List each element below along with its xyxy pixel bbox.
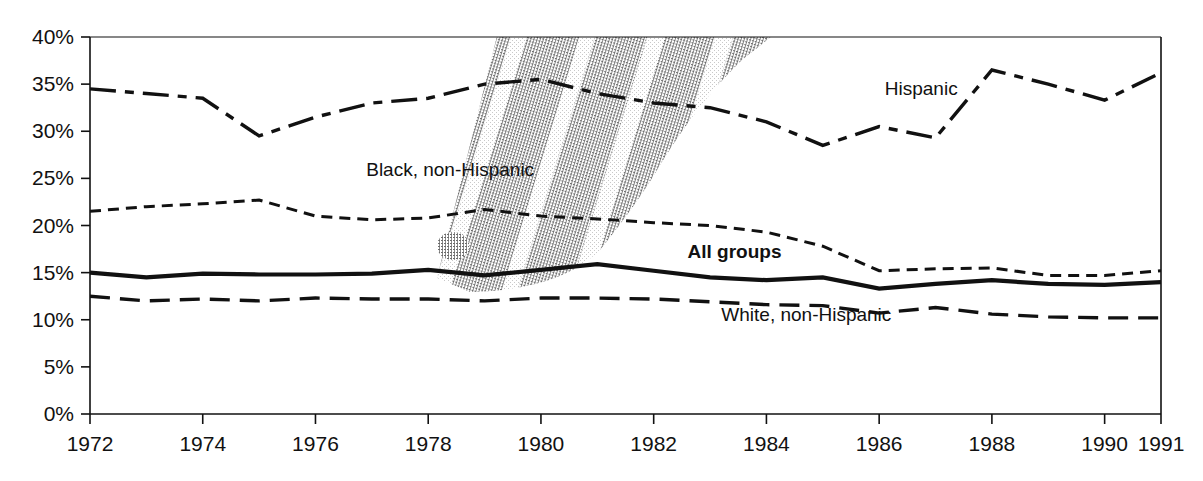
chart-root: 0%5%10%15%20%25%30%35%40% 19721974197619… — [0, 0, 1203, 481]
series-label: All groups — [688, 241, 782, 262]
x-tick-label: 1976 — [292, 432, 339, 455]
series-label: Hispanic — [885, 78, 958, 99]
x-axis-ticks — [90, 414, 1161, 424]
y-tick-label: 0% — [44, 402, 74, 425]
y-tick-label: 35% — [32, 72, 74, 95]
y-tick-label: 10% — [32, 308, 74, 331]
line-chart: 0%5%10%15%20%25%30%35%40% 19721974197619… — [0, 0, 1203, 481]
y-tick-label: 20% — [32, 214, 74, 237]
y-tick-label: 30% — [32, 119, 74, 142]
x-tick-label: 1984 — [743, 432, 790, 455]
y-tick-label: 40% — [32, 25, 74, 48]
y-axis-labels: 0%5%10%15%20%25%30%35%40% — [32, 25, 74, 425]
x-tick-label: 1980 — [518, 432, 565, 455]
x-tick-label: 1986 — [856, 432, 903, 455]
x-tick-label: 1991 — [1138, 432, 1185, 455]
series-line-white-non-hispanic — [90, 296, 1161, 318]
series-label: White, non-Hispanic — [721, 304, 891, 325]
x-tick-label: 1978 — [405, 432, 452, 455]
x-tick-label: 1988 — [969, 432, 1016, 455]
x-tick-label: 1990 — [1081, 432, 1128, 455]
x-tick-label: 1982 — [630, 432, 677, 455]
y-axis-ticks — [81, 37, 90, 414]
x-tick-label: 1972 — [67, 432, 114, 455]
x-tick-label: 1974 — [179, 432, 226, 455]
y-tick-label: 25% — [32, 166, 74, 189]
y-tick-label: 5% — [44, 355, 74, 378]
x-axis-labels: 1972197419761978198019821984198619881990… — [67, 432, 1185, 455]
series-label: Black, non-Hispanic — [366, 159, 534, 180]
y-tick-label: 15% — [32, 261, 74, 284]
